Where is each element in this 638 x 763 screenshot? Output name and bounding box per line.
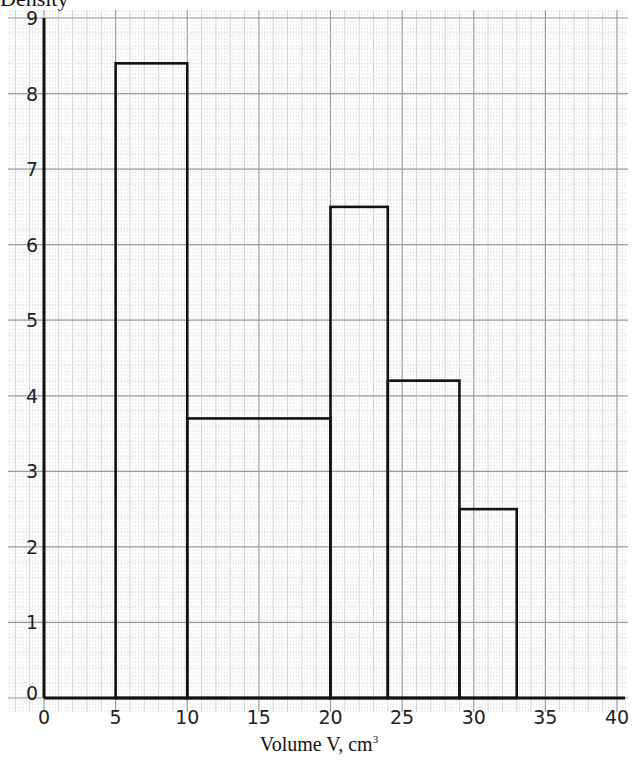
x-tick-label: 30 <box>462 706 486 728</box>
y-tick-label: 9 <box>26 7 38 29</box>
y-tick-label: 5 <box>26 309 38 331</box>
y-tick-label: 0 <box>26 682 38 704</box>
y-tick-label: 2 <box>26 536 38 558</box>
histogram-bar-24-29 <box>388 381 460 698</box>
x-tick-label: 20 <box>318 706 342 728</box>
y-tick-label: 6 <box>26 234 38 256</box>
grid <box>8 10 628 712</box>
y-tick-label: 3 <box>26 460 38 482</box>
x-tick-label: 5 <box>110 706 122 728</box>
x-tick-label: 15 <box>247 706 271 728</box>
x-tick-label: 40 <box>605 706 629 728</box>
x-tick-label: 25 <box>390 706 414 728</box>
y-tick-label: 1 <box>26 611 38 633</box>
axes <box>44 18 625 698</box>
histogram-chart: 05101520253035400123456789 <box>0 0 638 763</box>
y-tick-label: 4 <box>26 385 38 407</box>
y-tick-label: 8 <box>26 83 38 105</box>
x-tick-label: 35 <box>533 706 557 728</box>
x-tick-label: 10 <box>175 706 199 728</box>
x-axis-label: Volume V, cm3 <box>0 733 638 756</box>
x-tick-label: 0 <box>38 706 50 728</box>
y-tick-label: 7 <box>26 158 38 180</box>
